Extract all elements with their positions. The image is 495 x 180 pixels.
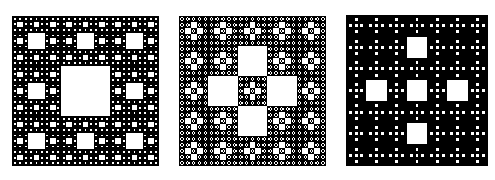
- fractal-panel-sierpinski-carpet: [12, 16, 159, 166]
- fractal-holes: [12, 16, 159, 166]
- fractal-holes: [179, 16, 326, 166]
- fractal-panel-sparse-plus-carpet: [346, 15, 488, 166]
- fractal-holes: [346, 15, 488, 166]
- fractal-panel-plus-cross-carpet: [179, 16, 326, 166]
